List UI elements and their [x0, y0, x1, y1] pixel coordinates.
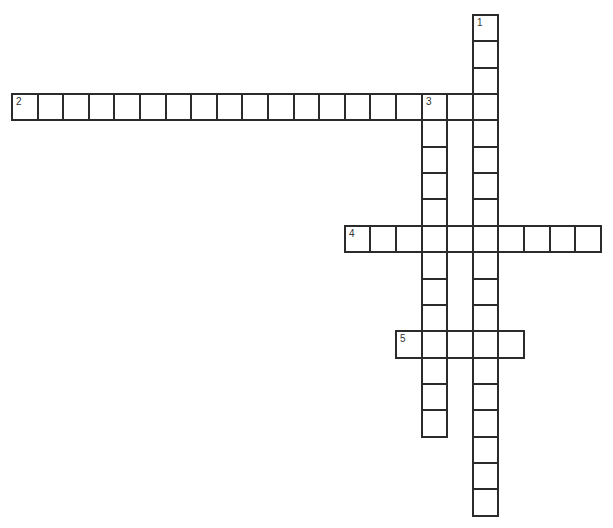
crossword-cell[interactable] — [62, 93, 90, 121]
crossword-cell[interactable] — [472, 198, 499, 227]
crossword-cell[interactable] — [421, 172, 448, 200]
crossword-cell[interactable] — [395, 225, 423, 253]
crossword-cell[interactable] — [472, 330, 499, 359]
crossword-cell[interactable] — [472, 357, 499, 385]
crossword-cell[interactable] — [472, 40, 499, 69]
crossword-cell[interactable] — [472, 225, 499, 253]
crossword-cell[interactable] — [497, 330, 525, 359]
crossword-cell[interactable] — [421, 304, 448, 332]
crossword-cell[interactable] — [293, 93, 320, 121]
crossword-cell[interactable] — [472, 462, 499, 490]
crossword-cell[interactable] — [37, 93, 64, 121]
crossword-cell[interactable]: 3 — [421, 93, 448, 121]
crossword-cell[interactable] — [472, 251, 499, 280]
crossword-cell[interactable] — [497, 225, 525, 253]
crossword-cell[interactable] — [421, 278, 448, 306]
crossword-cell[interactable] — [267, 93, 295, 121]
crossword-cell[interactable] — [344, 93, 371, 121]
clue-number: 3 — [426, 96, 432, 107]
clue-number: 4 — [349, 228, 355, 239]
clue-number: 1 — [477, 17, 483, 28]
crossword-cell[interactable] — [472, 304, 499, 332]
crossword-cell[interactable]: 1 — [472, 14, 499, 42]
crossword-cell[interactable] — [472, 119, 499, 148]
crossword-cell[interactable] — [395, 93, 423, 121]
crossword-cell[interactable] — [421, 251, 448, 280]
crossword-cell[interactable] — [446, 225, 474, 253]
crossword-cell[interactable]: 5 — [395, 330, 423, 359]
crossword-cell[interactable] — [574, 225, 602, 253]
crossword-cell[interactable]: 4 — [344, 225, 371, 253]
crossword-cell[interactable] — [421, 383, 448, 411]
crossword-cell[interactable] — [318, 93, 346, 121]
crossword-cell[interactable] — [369, 225, 397, 253]
crossword-cell[interactable] — [472, 436, 499, 464]
crossword-cell[interactable] — [421, 357, 448, 385]
crossword-cell[interactable] — [421, 225, 448, 253]
crossword-cell[interactable]: 2 — [11, 93, 39, 121]
clue-number: 5 — [400, 333, 406, 344]
crossword-cell[interactable] — [472, 146, 499, 174]
crossword-cell[interactable] — [139, 93, 167, 121]
crossword-cell[interactable] — [472, 93, 499, 121]
crossword-cell[interactable] — [113, 93, 141, 121]
crossword-cell[interactable] — [472, 488, 499, 517]
crossword-cell[interactable] — [523, 225, 551, 253]
crossword-cell[interactable] — [421, 146, 448, 174]
crossword-cell[interactable] — [472, 278, 499, 306]
crossword-cell[interactable] — [472, 409, 499, 438]
crossword-grid: 12345 — [0, 0, 613, 528]
crossword-cell[interactable] — [549, 225, 576, 253]
crossword-cell[interactable] — [421, 198, 448, 227]
crossword-cell[interactable] — [446, 93, 474, 121]
crossword-cell[interactable] — [216, 93, 243, 121]
crossword-cell[interactable] — [369, 93, 397, 121]
crossword-cell[interactable] — [421, 409, 448, 438]
clue-number: 2 — [16, 96, 22, 107]
crossword-cell[interactable] — [472, 172, 499, 200]
crossword-cell[interactable] — [88, 93, 115, 121]
crossword-cell[interactable] — [241, 93, 269, 121]
crossword-cell[interactable] — [165, 93, 192, 121]
crossword-cell[interactable] — [472, 383, 499, 411]
crossword-cell[interactable] — [421, 119, 448, 148]
crossword-cell[interactable] — [190, 93, 218, 121]
crossword-cell[interactable] — [421, 330, 448, 359]
crossword-cell[interactable] — [446, 330, 474, 359]
crossword-cell[interactable] — [472, 67, 499, 95]
